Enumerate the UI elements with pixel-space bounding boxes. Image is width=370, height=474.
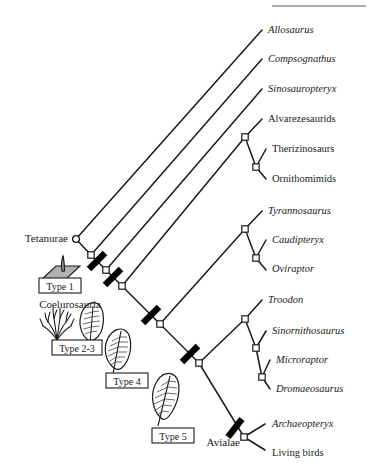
node-backbone-4	[157, 321, 163, 327]
tip-label-archaeopteryx: Archaeopteryx	[271, 418, 334, 429]
node-dromaeosaur-2	[259, 374, 265, 380]
node-tetanurae	[73, 236, 80, 243]
tip-label-ornithomimids: Ornithomimids	[272, 173, 336, 184]
node-maniraptoriform-2	[253, 164, 259, 170]
tip-label-dromaeosaurus: Dromaeosaurus	[275, 383, 343, 394]
cladogram-figure: Type 1 Type 2-3 Type 4 Type 5 Tetanurae …	[0, 0, 370, 474]
tip-label-living-birds: Living birds	[272, 447, 324, 458]
cladogram-canvas: Type 1 Type 2-3 Type 4 Type 5 Tetanurae …	[0, 0, 370, 474]
clade-label-tetanurae: Tetanurae	[25, 232, 68, 244]
node-dromaeosaur-1	[253, 345, 259, 351]
clade-label-avialae: Avialae	[207, 436, 241, 448]
tip-label-sinornithosaurus: Sinornithosaurus	[272, 325, 344, 336]
type-5-label: Type 5	[159, 431, 186, 442]
type-1-label: Type 1	[46, 281, 73, 292]
tip-label-therizinosaurs: Therizinosaurs	[272, 143, 334, 154]
tip-label-sinosauropteryx: Sinosauropteryx	[268, 83, 337, 94]
tip-label-compsognathus: Compsognathus	[268, 53, 336, 64]
type-2-3-label-box: Type 2-3	[52, 340, 102, 355]
tip-label-troodon: Troodon	[268, 294, 303, 305]
type-4-label-box: Type 4	[106, 373, 148, 388]
tip-label-tyrannosaurus: Tyrannosaurus	[268, 205, 331, 216]
node-maniraptoriform-1	[242, 134, 248, 140]
type-5-label-box: Type 5	[152, 428, 194, 443]
node-tyrannoraptora-1	[242, 226, 248, 232]
node-backbone-2	[103, 267, 109, 273]
type-4-label: Type 4	[113, 376, 140, 387]
tip-label-alvarezesaurids: Alvarezesaurids	[268, 113, 336, 124]
node-oviraptorosaur-1	[253, 255, 259, 261]
type-2-3-label: Type 2-3	[59, 343, 95, 354]
tip-label-caudipteryx: Caudipteryx	[272, 234, 324, 245]
node-avialae	[241, 434, 247, 440]
node-backbone-3	[119, 283, 125, 289]
tip-label-allosaurus: Allosaurus	[267, 24, 314, 35]
tip-label-microraptor: Microraptor	[275, 354, 329, 365]
node-backbone-5	[196, 360, 202, 366]
node-coelurosauria	[88, 252, 94, 258]
type-1-label-box: Type 1	[39, 278, 81, 293]
node-deinonychosaur-1	[242, 316, 248, 322]
clade-label-coelurosauria: Coelurosauria	[39, 298, 101, 310]
tip-label-oviraptor: Oviraptor	[272, 263, 315, 274]
